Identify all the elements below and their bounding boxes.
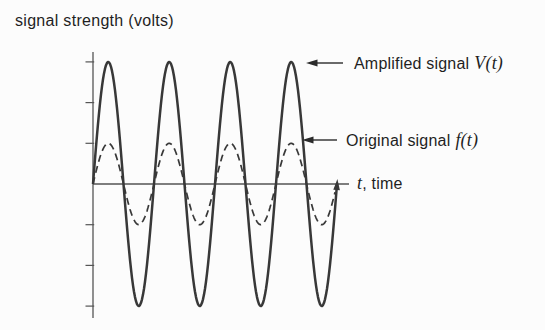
amplified-signal-math: V(t) xyxy=(474,53,503,73)
y-axis-title: signal strength (volts) xyxy=(15,10,174,32)
amplified-signal-label: Amplified signal xyxy=(354,55,469,72)
left-arrowhead-icon xyxy=(306,60,318,67)
chart-canvas xyxy=(0,0,545,330)
original-signal-annotation: Original signalf(t) xyxy=(346,129,478,152)
original-annotation-arrow xyxy=(302,137,337,144)
original-signal-label: Original signal xyxy=(346,132,450,149)
original-signal-math: f(t) xyxy=(455,130,478,150)
x-axis-label-rest: , time xyxy=(362,175,402,192)
signal-amplification-figure: signal strength (volts) Amplified signal… xyxy=(0,0,545,330)
x-axis-label: t, time xyxy=(357,172,403,195)
amplified-signal-annotation: Amplified signalV(t) xyxy=(354,52,503,75)
amplified-annotation-arrow xyxy=(306,60,343,67)
